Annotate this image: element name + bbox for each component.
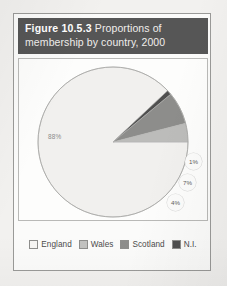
legend-swatch-scotland [120,240,129,249]
pie-slices [38,67,188,217]
pie-label-ni: 1% [185,153,202,170]
legend-label-ni: N.I. [184,240,197,249]
figure-caption-number: Figure 10.5.3 [25,22,92,34]
legend-item-england: England [29,240,71,249]
legend-swatch-ni [172,240,181,249]
pie-label-england: 88% [48,133,61,140]
legend-swatch-wales [79,240,88,249]
legend-item-wales: Wales [79,240,114,249]
chart-legend: England Wales Scotland N.I. [18,224,208,264]
pie-label-wales: 4% [167,194,184,211]
legend-item-scotland: Scotland [120,240,164,249]
scanned-page: Figure 10.5.3 Proportions of membership … [0,0,227,286]
legend-label-scotland: Scotland [132,240,164,249]
legend-label-wales: Wales [91,240,114,249]
figure-caption-text: Figure 10.5.3 Proportions of membership … [25,22,201,49]
legend-item-ni: N.I. [172,240,197,249]
pie-chart-plot-area: 88% 1% 7% 4% [18,58,208,221]
pie-label-scotland: 7% [179,174,196,191]
figure-caption-band: Figure 10.5.3 Proportions of membership … [18,18,208,54]
figure-frame: Figure 10.5.3 Proportions of membership … [13,13,211,271]
legend-swatch-england [29,240,38,249]
legend-label-england: England [41,240,71,249]
